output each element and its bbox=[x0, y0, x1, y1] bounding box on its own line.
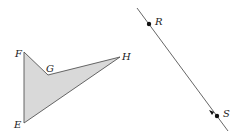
geometry-diagram: F G H E R S bbox=[0, 0, 241, 138]
label-r: R bbox=[154, 16, 163, 27]
line-rs bbox=[137, 8, 228, 131]
label-h: H bbox=[121, 51, 131, 62]
label-s: S bbox=[223, 108, 230, 119]
label-g: G bbox=[46, 63, 54, 74]
point-s bbox=[215, 114, 219, 118]
label-e: E bbox=[13, 119, 22, 130]
label-f: F bbox=[14, 48, 23, 59]
quadrilateral-efgh bbox=[24, 52, 120, 123]
point-r bbox=[147, 22, 151, 26]
